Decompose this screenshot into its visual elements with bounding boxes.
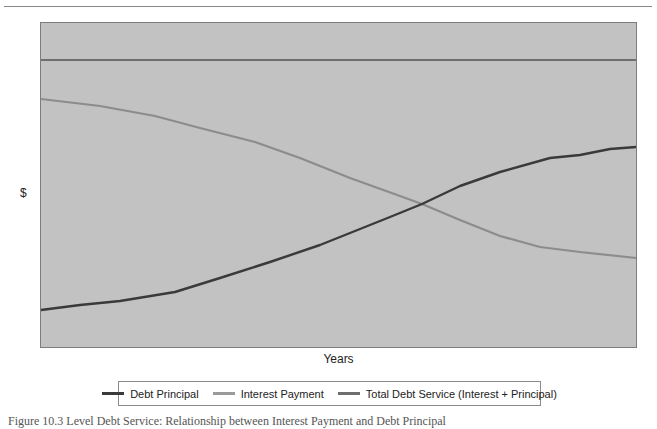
legend-label: Total Debt Service (Interest + Principal… <box>366 388 557 400</box>
legend-item-total-debt-service: Total Debt Service (Interest + Principal… <box>338 388 557 400</box>
legend-item-interest-payment: Interest Payment <box>213 388 324 400</box>
legend-label: Debt Principal <box>130 388 198 400</box>
legend-swatch-icon <box>102 392 124 395</box>
y-axis-label: $ <box>20 186 27 200</box>
legend-swatch-icon <box>213 392 235 395</box>
legend-item-debt-principal: Debt Principal <box>102 388 198 400</box>
x-axis-label: Years <box>0 352 657 366</box>
legend: Debt Principal Interest Payment Total De… <box>118 381 541 406</box>
legend-swatch-icon <box>338 392 360 395</box>
legend-label: Interest Payment <box>241 388 324 400</box>
figure-caption: Figure 10.3 Level Debt Service: Relation… <box>8 414 446 429</box>
